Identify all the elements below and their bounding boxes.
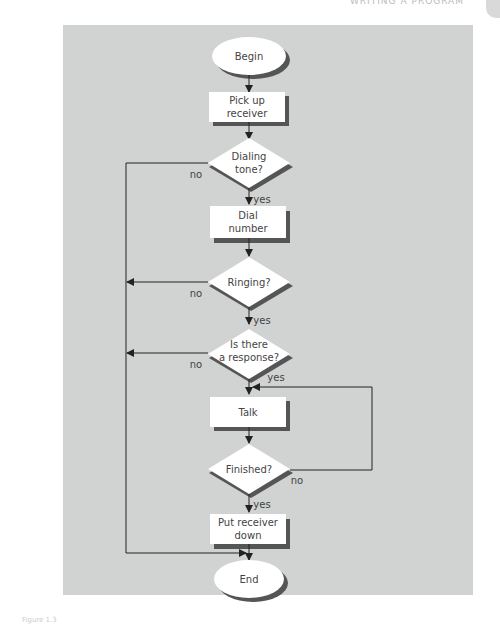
svg-text:Put receiver: Put receiver xyxy=(218,517,279,528)
svg-text:End: End xyxy=(239,574,258,585)
svg-text:receiver: receiver xyxy=(227,108,269,119)
svg-text:yes: yes xyxy=(253,499,270,510)
svg-text:no: no xyxy=(190,288,202,299)
svg-text:Begin: Begin xyxy=(235,51,263,62)
svg-text:yes: yes xyxy=(267,372,284,383)
figure-caption: Figure 1.3 xyxy=(22,616,57,624)
svg-text:Pick up: Pick up xyxy=(229,95,265,106)
svg-text:no: no xyxy=(190,169,202,180)
svg-text:a response?: a response? xyxy=(219,352,279,363)
svg-text:yes: yes xyxy=(253,315,270,326)
svg-text:Talk: Talk xyxy=(237,407,257,418)
node-end: End xyxy=(214,560,288,602)
svg-text:down: down xyxy=(235,530,262,541)
svg-text:yes: yes xyxy=(253,194,270,205)
node-finished: Finished? xyxy=(208,444,293,498)
node-ringing: Ringing? xyxy=(208,257,293,311)
svg-text:no: no xyxy=(190,359,202,370)
svg-text:Dial: Dial xyxy=(238,210,257,221)
svg-text:Finished?: Finished? xyxy=(226,464,272,475)
node-dial-number: Dial number xyxy=(210,206,290,243)
svg-text:Is there: Is there xyxy=(230,339,268,350)
node-begin: Begin xyxy=(212,37,290,79)
svg-text:tone?: tone? xyxy=(235,164,263,175)
svg-text:number: number xyxy=(228,223,268,234)
svg-text:no: no xyxy=(291,475,303,486)
node-pick-up-receiver: Pick up receiver xyxy=(209,92,289,126)
svg-text:Ringing?: Ringing? xyxy=(227,277,270,288)
svg-text:Dialing: Dialing xyxy=(232,151,267,162)
node-talk: Talk xyxy=(210,397,290,431)
node-put-receiver-down: Put receiver down xyxy=(210,514,290,549)
node-dialing-tone: Dialing tone? xyxy=(208,138,293,192)
